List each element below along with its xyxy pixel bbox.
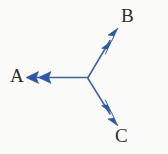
vector-canvas [0,0,168,154]
vector-diagram: A B C [0,0,168,154]
vector-c [88,79,118,127]
vector-label-b: B [121,6,134,25]
vector-label-a: A [10,66,24,85]
vector-b [88,28,118,78]
vector-b-arrowhead-outer [108,28,118,41]
vector-a [26,72,88,84]
vector-label-c: C [115,126,128,145]
